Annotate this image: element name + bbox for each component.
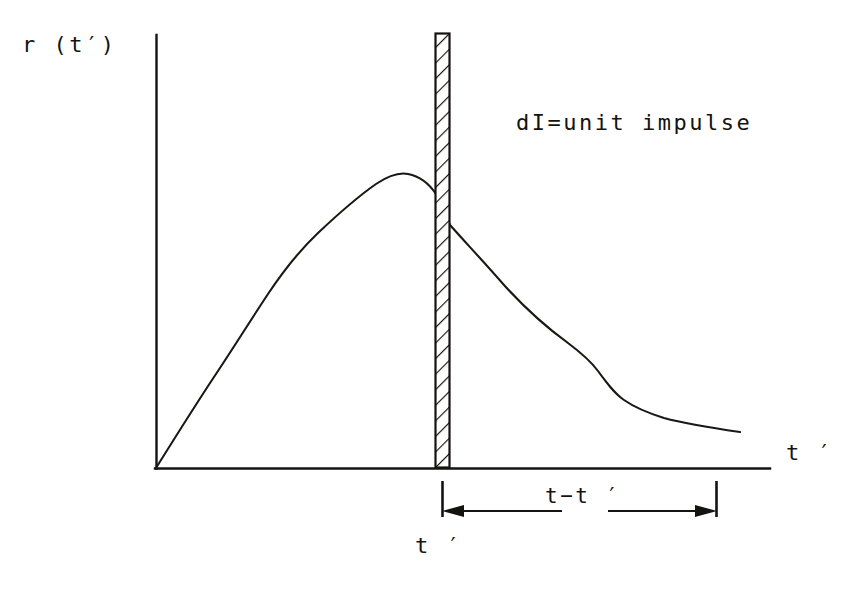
dimension-arrow-right	[695, 505, 717, 517]
x-axis-label: t ′	[786, 440, 833, 465]
dimension-arrow-left	[442, 505, 464, 517]
impulse-bar	[435, 33, 450, 468]
figure-canvas: r (t′) t ′ dI=unit impulse t−t ′ t ′	[0, 0, 863, 590]
interval-label: t−t ′	[545, 484, 621, 508]
impulse-time-label: t ′	[415, 533, 462, 558]
y-axis-label: r (t′)	[22, 32, 116, 57]
impulse-annotation-label: dI=unit impulse	[516, 110, 752, 135]
axes-group	[155, 35, 770, 469]
impulse-bar-fill	[435, 33, 450, 468]
impulse-response-figure: r (t′) t ′ dI=unit impulse t−t ′ t ′	[0, 0, 863, 590]
